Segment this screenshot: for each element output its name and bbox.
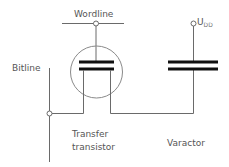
transistor-caption-line1: Transfer	[71, 129, 108, 139]
bitline-node-icon	[47, 111, 52, 116]
supply-label: UDD	[197, 17, 213, 28]
varactor: UDD	[168, 17, 218, 69]
wordline-node-icon	[94, 21, 99, 26]
bitline-label: Bitline	[12, 63, 41, 73]
wordline-label: Wordline	[74, 9, 114, 19]
dram-cell-schematic: Wordline Bitline UDD Transfer transistor…	[0, 0, 229, 167]
transistor-caption-line2: transistor	[72, 142, 115, 152]
supply-node-icon	[191, 21, 196, 26]
varactor-caption: Varactor	[167, 138, 205, 148]
storage-node-wire	[111, 70, 194, 114]
